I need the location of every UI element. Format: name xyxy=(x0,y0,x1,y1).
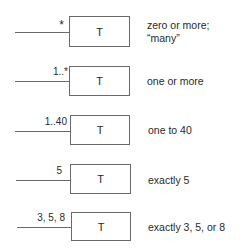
class-name: T xyxy=(98,221,105,233)
multiplicity-row-range: 1..40 T one to 40 xyxy=(0,115,242,147)
class-name: T xyxy=(97,173,104,185)
class-box: T xyxy=(69,66,130,96)
multiplicity-label: 1..40 xyxy=(45,116,67,127)
multiplicity-row-set: 3, 5, 8 T exactly 3, 5, or 8 xyxy=(0,212,242,244)
multiplicity-row-many: * T zero or more; “many” xyxy=(0,16,242,48)
description: one to 40 xyxy=(148,124,192,137)
description-line: exactly 3, 5, or 8 xyxy=(148,221,225,234)
multiplicity-label: * xyxy=(59,18,64,32)
class-box: T xyxy=(70,115,130,145)
multiplicity-row-exact: 5 T exactly 5 xyxy=(0,164,242,196)
association-line xyxy=(17,227,71,228)
description: zero or more; “many” xyxy=(147,19,209,45)
description-line: one or more xyxy=(147,75,204,88)
class-name: T xyxy=(96,75,103,87)
description: exactly 5 xyxy=(148,174,189,187)
class-name: T xyxy=(97,124,104,136)
association-line xyxy=(16,180,71,181)
class-name: T xyxy=(96,26,103,38)
association-line xyxy=(15,131,70,132)
association-line xyxy=(15,81,69,82)
multiplicity-row-one-or-more: 1..* T one or more xyxy=(0,66,242,98)
description-line: zero or more; xyxy=(147,19,209,32)
multiplicity-label: 1..* xyxy=(53,66,68,77)
association-line xyxy=(15,32,69,33)
multiplicity-label: 5 xyxy=(56,165,62,176)
class-box: T xyxy=(70,164,131,194)
description: exactly 3, 5, or 8 xyxy=(148,221,225,234)
multiplicity-label: 3, 5, 8 xyxy=(37,212,65,223)
description-line: “many” xyxy=(147,32,209,45)
description-line: one to 40 xyxy=(148,124,192,137)
class-box: T xyxy=(69,16,130,47)
description-line: exactly 5 xyxy=(148,174,189,187)
description: one or more xyxy=(147,75,204,88)
class-box: T xyxy=(71,212,131,241)
